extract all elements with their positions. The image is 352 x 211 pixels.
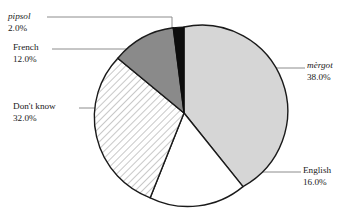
slice-label-french: French 12.0% <box>13 42 39 66</box>
slice-label-pipsol: pipsol 2.0% <box>8 11 30 35</box>
slice-label-pipsol-name: pipsol <box>8 11 30 21</box>
slice-label-mergot-value: 38.0% <box>307 72 333 84</box>
slice-label-pipsol-value: 2.0% <box>8 23 30 35</box>
slice-label-french-name: French <box>13 42 39 52</box>
slice-label-english-value: 16.0% <box>303 177 331 189</box>
slice-label-dont-know-value: 32.0% <box>13 113 56 125</box>
slice-label-french-value: 12.0% <box>13 54 39 66</box>
slice-label-dont-know-name: Don't know <box>13 101 56 111</box>
slice-label-mergot-name: mèrgot <box>307 60 333 70</box>
pie-chart-figure: pipsol 2.0% French 12.0% Don't know 32.0… <box>0 0 352 211</box>
slice-label-mergot: mèrgot 38.0% <box>307 60 333 84</box>
slice-label-dont-know: Don't know 32.0% <box>13 101 56 125</box>
slice-label-english: English 16.0% <box>303 165 331 189</box>
slice-label-english-name: English <box>303 165 331 175</box>
pie-slices <box>94 25 287 206</box>
